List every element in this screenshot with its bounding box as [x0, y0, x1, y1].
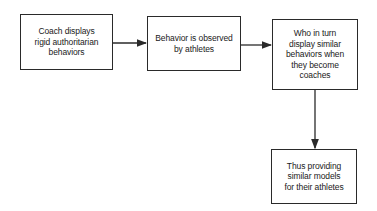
node-who-in-turn: Who in turn display similar behaviors wh…: [272, 19, 358, 90]
node-thus-providing: Thus providing similar models for their …: [271, 149, 357, 204]
node-label: Who in turn display similar behaviors wh…: [286, 28, 344, 81]
node-coach-displays: Coach displays rigid authoritarian behav…: [20, 14, 113, 70]
node-label: Coach displays rigid authoritarian behav…: [35, 26, 99, 58]
node-behavior-observed: Behavior is observed by athletes: [147, 16, 241, 71]
node-label: Behavior is observed by athletes: [155, 33, 232, 54]
node-label: Thus providing similar models for their …: [284, 161, 343, 193]
